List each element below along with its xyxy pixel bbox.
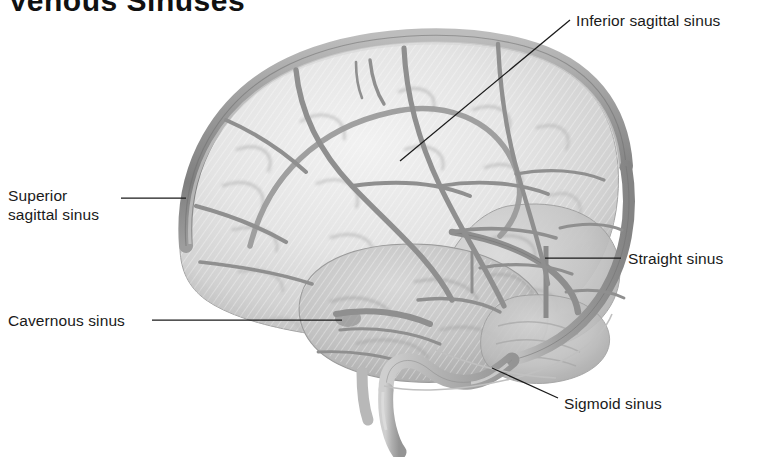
label-superior-sagittal-sinus-line2: sagittal sinus: [8, 206, 99, 223]
label-sigmoid-sinus: Sigmoid sinus: [564, 394, 662, 413]
label-superior-sagittal-sinus-line1: Superior: [8, 187, 67, 204]
label-cavernous-sinus: Cavernous sinus: [8, 311, 125, 330]
brainstem: [362, 372, 368, 420]
figure-canvas: Venous Sinuses: [0, 0, 763, 457]
brain-venous-sinus-illustration: [0, 0, 763, 457]
label-straight-sinus: Straight sinus: [628, 249, 723, 268]
internal-jugular-vein: [383, 390, 399, 452]
label-superior-sagittal-sinus: Superiorsagittal sinus: [8, 186, 99, 224]
label-inferior-sagittal-sinus: Inferior sagittal sinus: [576, 11, 720, 30]
